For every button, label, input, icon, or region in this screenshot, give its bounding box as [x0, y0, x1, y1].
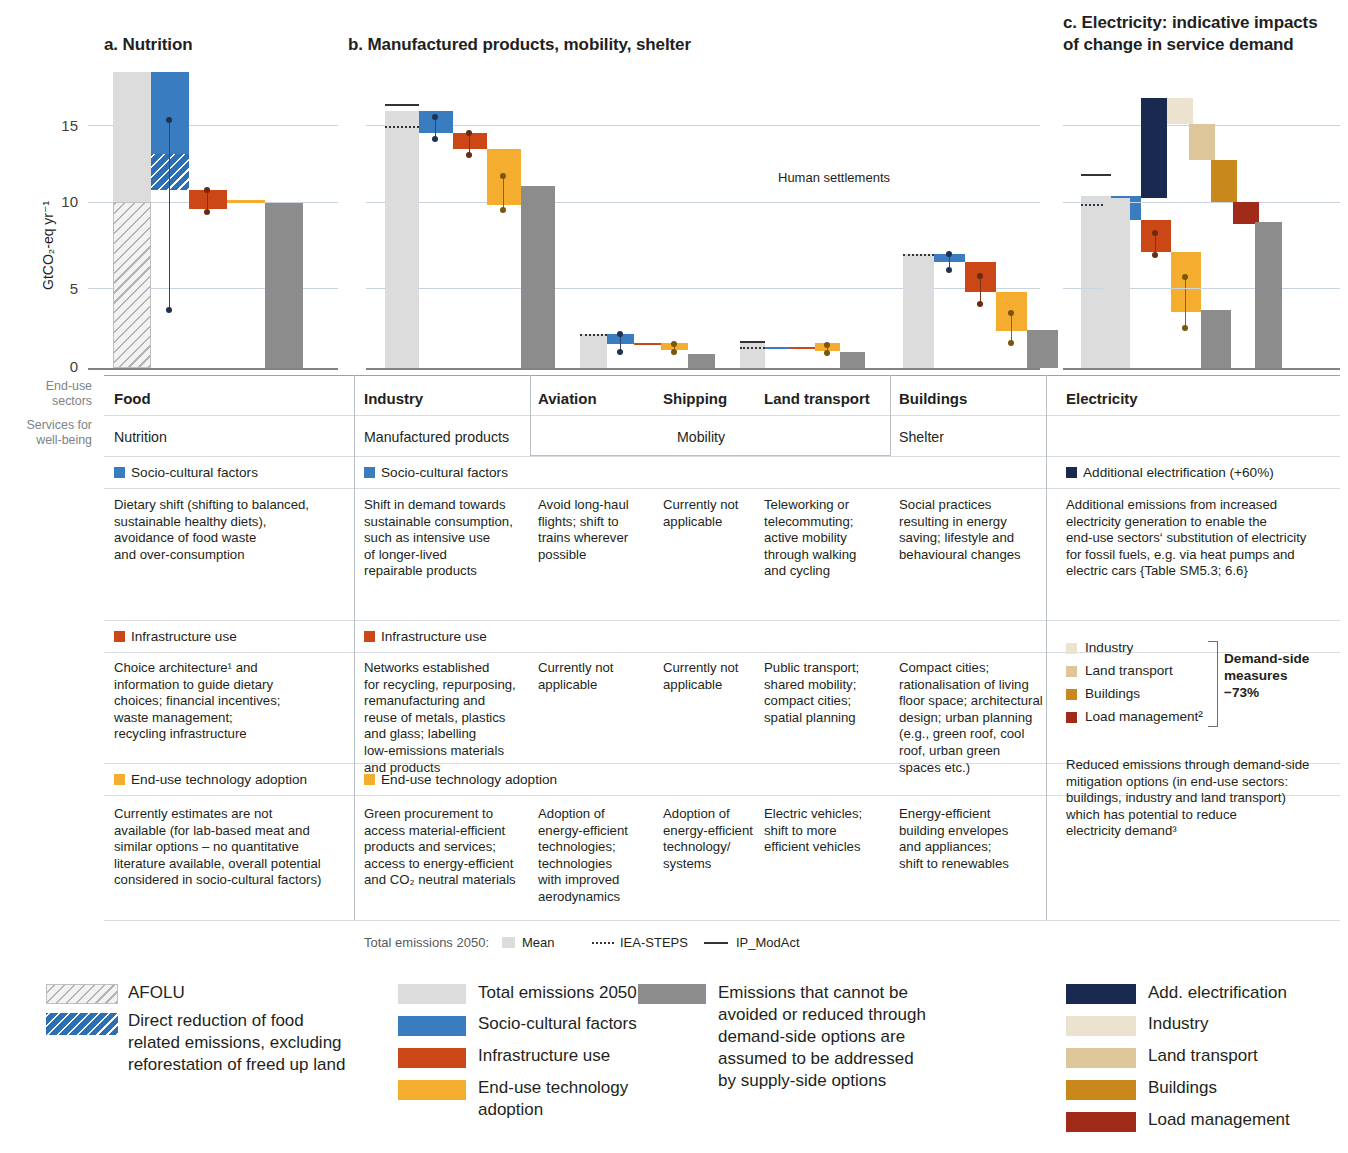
legend-swatch-load-management	[1066, 1112, 1136, 1132]
legend-dsm-buildings: Buildings	[1085, 686, 1140, 701]
total-legend-prefix: Total emissions 2050:	[364, 935, 489, 950]
range-dot-food-socio-high	[166, 117, 172, 123]
range-dot-industry-socio-low	[432, 136, 438, 142]
range-dot-food-infra-high	[204, 187, 210, 193]
range-dot-aviation-enduse-low	[671, 349, 677, 355]
bar-electricity-landtransport	[1189, 124, 1215, 160]
legend-enduse-industry: End-use technology adoption	[381, 772, 557, 787]
legend-swatch-residual	[638, 984, 706, 1004]
bar-shipping-infra	[790, 347, 815, 349]
bar-food-residual	[265, 203, 303, 368]
vline-industry-aviation	[530, 375, 531, 456]
cell-enduse-land-transport: Electric vehicles; shift to more efficie…	[764, 806, 889, 856]
vline-food-industry	[354, 375, 355, 920]
mobility-box-bottom	[530, 455, 890, 456]
legend-label-direct-reduction: Direct reduction of food related emissio…	[128, 1010, 378, 1076]
y-tick-10: 10	[44, 193, 78, 210]
legend-swatch-infra	[398, 1048, 466, 1068]
bar-electricity-loadmgmt	[1233, 202, 1259, 224]
legend-enduse-food: End-use technology adoption	[131, 772, 307, 787]
rule-enduse-body	[104, 920, 1340, 921]
bar-food-infra	[189, 190, 227, 209]
legend-label-buildings: Buildings	[1148, 1077, 1217, 1099]
swatch-socio-food	[114, 467, 125, 478]
legend-socio-food: Socio-cultural factors	[131, 465, 258, 480]
rule-services	[104, 456, 1340, 457]
sector-header-industry: Industry	[364, 390, 423, 407]
sector-header-buildings: Buildings	[899, 390, 967, 407]
range-line-industry-enduse	[503, 176, 504, 210]
bar-shipping-residual	[840, 352, 865, 368]
axis-baseline-b	[366, 368, 1040, 370]
bar-food-afolu-hatch	[113, 202, 151, 368]
range-dot-food-infra-low	[204, 209, 210, 215]
range-dot-industry-infra-high	[466, 130, 472, 136]
rule-socio-body	[104, 620, 1340, 621]
panel-c-title-line2: of change in service demand	[1063, 34, 1294, 56]
sector-header-food: Food	[114, 390, 151, 407]
mark-legend-ieasteps	[592, 942, 614, 944]
total-legend-iea: IEA-STEPS	[620, 935, 688, 950]
y-axis-label: GtCO₂-eq yr⁻¹	[40, 201, 56, 290]
range-line-landtransport-enduse	[1011, 313, 1012, 343]
legend-swatch-land-transport	[1066, 1048, 1136, 1068]
bar-electricity-industry	[1167, 98, 1193, 124]
legend-label-industry: Industry	[1148, 1013, 1208, 1035]
cell-enduse-aviation: Adoption of energy-efficient technologie…	[538, 806, 658, 906]
swatch-total-mean	[502, 937, 515, 948]
cell-enduse-shipping: Adoption of energy-efficient technology/…	[663, 806, 763, 872]
range-dot-landtransport-infra-high	[977, 273, 983, 279]
legend-label-enduse: End-use technology adoption	[478, 1077, 658, 1121]
bar-food-direct-reduction-hatch	[151, 154, 189, 190]
cell-socio-shipping: Currently not applicable	[663, 497, 763, 530]
service-shelter: Shelter	[899, 429, 944, 445]
legend-swatch-socio	[398, 1016, 466, 1036]
sector-header-shipping: Shipping	[663, 390, 727, 407]
range-line-food-socio	[169, 120, 170, 310]
legend-socio-industry: Socio-cultural factors	[381, 465, 508, 480]
sector-header-aviation: Aviation	[538, 390, 597, 407]
side-label-end-use-sectors: End-use sectors	[10, 379, 92, 408]
cell-socio-industry: Shift in demand towards sustainable cons…	[364, 497, 529, 580]
legend-label-land-transport: Land transport	[1148, 1045, 1258, 1067]
swatch-infra-food	[114, 631, 125, 642]
range-dot-food-socio-low	[166, 307, 172, 313]
gridline-10-b	[366, 202, 1040, 203]
swatch-enduse-industry	[364, 774, 375, 785]
cell-enduse-buildings: Energy-efficient building envelopes and …	[899, 806, 1044, 872]
bar-aviation-total	[580, 334, 607, 368]
swatch-enduse-food	[114, 774, 125, 785]
range-dot-shipping-enduse-high	[824, 342, 830, 348]
mark-ipmodact-industry	[385, 104, 419, 106]
range-dot-aviation-socio-high	[617, 331, 623, 337]
range-dot-aviation-enduse-high	[671, 341, 677, 347]
legend-dsm-industry: Industry	[1085, 640, 1133, 655]
cell-electricity-addelec-body: Additional emissions from increased elec…	[1066, 497, 1340, 580]
legend-swatch-total-emissions	[398, 984, 466, 1004]
cell-socio-food: Dietary shift (shifting to balanced, sus…	[114, 497, 349, 563]
mark-ieasteps-aviation	[580, 334, 607, 336]
legend-addelec: Additional electrification (+60%)	[1083, 465, 1274, 480]
legend-label-load-management: Load management	[1148, 1109, 1290, 1131]
legend-label-total-emissions: Total emissions 2050	[478, 982, 637, 1004]
rule-socio-head	[104, 488, 1340, 489]
bar-landtransport-total	[903, 254, 934, 368]
legend-swatch-buildings	[1066, 1080, 1136, 1100]
swatch-dsm-land-transport	[1066, 666, 1077, 677]
total-legend-ipmodact: IP_ModAct	[736, 935, 800, 950]
vline-buildings-electricity	[1046, 375, 1047, 920]
panel-b-title: b. Manufactured products, mobility, shel…	[348, 35, 691, 55]
cell-socio-aviation: Avoid long-haul flights; shift to trains…	[538, 497, 658, 563]
gridline-15-b	[366, 125, 1040, 126]
legend-dsm-land-transport: Land transport	[1085, 663, 1173, 678]
mark-ieasteps-landtransport	[903, 254, 934, 256]
annotation-human-settlements: Human settlements	[778, 170, 890, 185]
panel-c-title-line1: c. Electricity: indicative impacts	[1063, 12, 1318, 34]
y-tick-15: 15	[44, 117, 78, 134]
cell-socio-land-transport: Teleworking or telecommuting; active mob…	[764, 497, 889, 580]
legend-swatch-direct-reduction	[46, 1013, 118, 1035]
bar-electricity-residual	[1255, 222, 1282, 368]
legend-swatch-afolu	[46, 984, 118, 1004]
range-dot-shipping-enduse-low	[824, 350, 830, 356]
panel-b-plot: Human settlements	[366, 70, 1040, 372]
